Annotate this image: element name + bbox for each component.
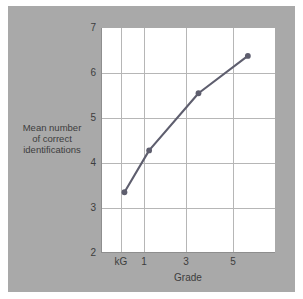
- data-point: [245, 53, 251, 59]
- y-tick-label: 2: [80, 248, 96, 258]
- y-axis-title-line-1: Mean number: [6, 122, 98, 133]
- plot-area: [101, 28, 275, 253]
- y-axis-title-line-2: of correct: [6, 133, 98, 144]
- x-tick-label: 5: [218, 256, 248, 267]
- y-tick-label: 3: [80, 203, 96, 213]
- x-tick-label: 1: [129, 256, 159, 267]
- series-line: [124, 56, 247, 192]
- data-point: [196, 90, 202, 96]
- y-tick-label: 6: [80, 68, 96, 78]
- y-axis-title: Mean number of correct identifications: [6, 122, 98, 155]
- x-axis-title: Grade: [101, 272, 275, 283]
- data-series-layer: [101, 28, 275, 253]
- figure-container: 7 6 5 4 3 2 kG 1 3 5 Grade Mean number o…: [0, 0, 303, 299]
- data-point: [146, 148, 152, 154]
- series-markers: [122, 53, 251, 195]
- y-tick-label: 7: [80, 23, 96, 33]
- y-axis-title-line-3: identifications: [6, 144, 98, 155]
- x-tick-label: 3: [171, 256, 201, 267]
- y-tick-label: 4: [80, 158, 96, 168]
- data-point: [122, 189, 128, 195]
